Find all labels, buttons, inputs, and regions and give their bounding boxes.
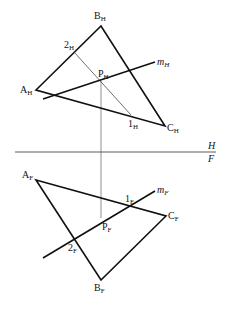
- label-2-f: 2F: [68, 242, 77, 255]
- label-a-f: AF: [22, 169, 33, 182]
- label-p-f: PF: [102, 221, 112, 234]
- folding-label-h: H: [207, 140, 216, 151]
- descriptive-geometry-diagram: BH 2H PH mH AH 1H CH H F AF 1F mF CF PF …: [0, 0, 237, 315]
- label-c-h: CH: [167, 122, 179, 135]
- label-m-h: mH: [157, 56, 170, 69]
- line-m-front-view: [43, 191, 155, 258]
- label-b-h: BH: [94, 10, 106, 23]
- label-1-f: 1F: [125, 193, 134, 206]
- label-2-h: 2H: [64, 39, 74, 52]
- label-1-h: 1H: [128, 118, 138, 131]
- label-p-h: PH: [98, 68, 109, 81]
- label-m-f: mF: [157, 184, 169, 197]
- label-c-f: CF: [168, 210, 179, 223]
- line-2h-1h: [74, 52, 131, 115]
- label-a-h: AH: [20, 84, 32, 97]
- label-b-f: BF: [94, 282, 105, 295]
- folding-label-f: F: [207, 153, 215, 164]
